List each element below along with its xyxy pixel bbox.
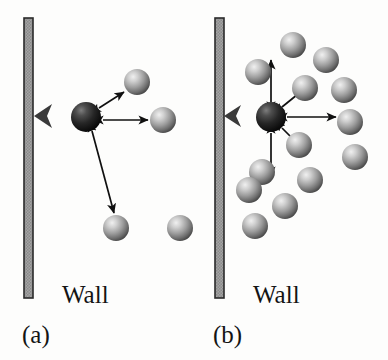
diagram-canvas: [0, 0, 388, 360]
panel-b: [215, 18, 368, 298]
sphere: [297, 167, 323, 193]
wall-label-a: Wall: [62, 282, 109, 307]
motion-arrow-head: [224, 105, 241, 127]
wall-label-b: Wall: [253, 282, 300, 307]
motion-arrow-b: [224, 105, 257, 127]
sphere: [337, 109, 363, 135]
sphere: [167, 215, 193, 241]
center-particle: [256, 102, 286, 132]
wall-bar: [24, 18, 33, 298]
sphere: [150, 107, 176, 133]
neighbor-spheres-a: [103, 69, 193, 241]
sphere: [313, 47, 339, 73]
sphere: [242, 213, 268, 239]
interaction-arrow: [99, 92, 124, 108]
sphere: [236, 177, 262, 203]
sphere: [286, 132, 312, 158]
center-particle: [71, 102, 101, 132]
panel-a: [24, 18, 193, 298]
figure-container: Wall Wall (a) (b): [0, 0, 388, 360]
interaction-arrow: [92, 131, 114, 213]
motion-arrow-head: [34, 104, 52, 128]
motion-arrow-a: [34, 104, 72, 128]
neighbor-spheres-b: [236, 32, 368, 239]
sphere: [103, 215, 129, 241]
sphere: [280, 32, 306, 58]
wall-b: [215, 18, 224, 298]
sphere: [272, 193, 298, 219]
sphere: [342, 144, 368, 170]
sphere: [245, 59, 271, 85]
sphere: [331, 77, 357, 103]
sphere: [292, 75, 318, 101]
interaction-arrows-a: [92, 92, 148, 213]
panel-caption-a: (a): [22, 322, 50, 347]
wall-bar: [215, 18, 224, 298]
panel-caption-b: (b): [213, 322, 242, 347]
wall-a: [24, 18, 33, 298]
sphere: [124, 69, 150, 95]
